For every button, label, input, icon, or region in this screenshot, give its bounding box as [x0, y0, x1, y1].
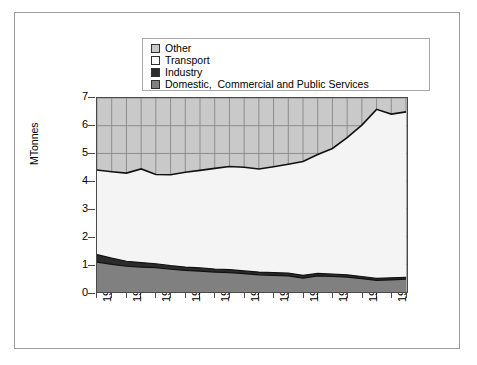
x-tick-mark [126, 293, 127, 298]
x-tick-mark [185, 293, 186, 298]
y-tick-mark [88, 181, 95, 182]
y-tick-mark [88, 237, 95, 238]
x-tick-mark [96, 293, 97, 298]
y-tick-mark [88, 153, 95, 154]
x-tick-mark [214, 293, 215, 298]
x-tick-mark [303, 293, 304, 298]
x-tick-mark [155, 293, 156, 298]
x-tick-mark [391, 293, 392, 298]
y-tick-mark [88, 265, 95, 266]
x-tick-mark [244, 293, 245, 298]
x-tick-mark [362, 293, 363, 298]
y-tick-mark [88, 293, 95, 294]
y-tick-mark [88, 125, 95, 126]
x-tick-mark [273, 293, 274, 298]
chart-plot-area [96, 97, 408, 293]
stacked-area-svg [97, 98, 407, 292]
x-tick-mark [332, 293, 333, 298]
y-tick-mark [88, 209, 95, 210]
y-tick-mark [88, 97, 95, 98]
